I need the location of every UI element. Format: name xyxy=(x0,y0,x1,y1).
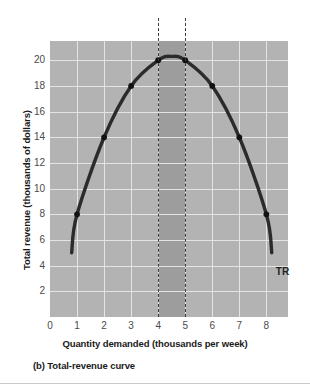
y-tick-10: 10 xyxy=(6,184,50,194)
x-tick-7: 7 xyxy=(229,320,249,332)
x-tick-4: 4 xyxy=(148,320,168,332)
x-axis-title: Quantity demanded (thousands per week) xyxy=(0,338,310,349)
x-tick-1: 1 xyxy=(67,320,87,332)
series-label-tr: TR xyxy=(276,266,289,277)
x-tick-6: 6 xyxy=(202,320,222,332)
y-tick-16: 16 xyxy=(6,107,50,117)
data-point-1 xyxy=(74,211,80,217)
total-revenue-figure: Total revenue (thousands of dollars) 246… xyxy=(0,0,310,391)
y-tick-20: 20 xyxy=(6,55,50,65)
x-axis-tick-labels: 012345678 xyxy=(0,320,310,334)
x-tick-2: 2 xyxy=(94,320,114,332)
y-tick-4: 4 xyxy=(6,261,50,271)
data-point-8 xyxy=(263,211,269,217)
elastic-boundary-left xyxy=(158,18,159,317)
y-axis-tick-labels: 2468101214161820 xyxy=(0,41,50,317)
plot-area: TR xyxy=(50,41,288,317)
x-tick-3: 3 xyxy=(121,320,141,332)
y-tick-2: 2 xyxy=(6,286,50,296)
data-point-2 xyxy=(101,134,107,140)
footer-divider xyxy=(0,383,310,384)
y-tick-12: 12 xyxy=(6,158,50,168)
y-tick-6: 6 xyxy=(6,235,50,245)
y-tick-14: 14 xyxy=(6,132,50,142)
data-point-3 xyxy=(128,83,134,89)
data-point-7 xyxy=(236,134,242,140)
total-revenue-curve xyxy=(50,41,288,317)
x-tick-0: 0 xyxy=(40,320,60,332)
y-tick-18: 18 xyxy=(6,81,50,91)
x-tick-8: 8 xyxy=(256,320,276,332)
data-point-6 xyxy=(209,83,215,89)
x-tick-5: 5 xyxy=(175,320,195,332)
y-tick-8: 8 xyxy=(6,209,50,219)
elastic-boundary-right xyxy=(185,18,186,317)
figure-caption: (b) Total-revenue curve xyxy=(33,360,135,371)
